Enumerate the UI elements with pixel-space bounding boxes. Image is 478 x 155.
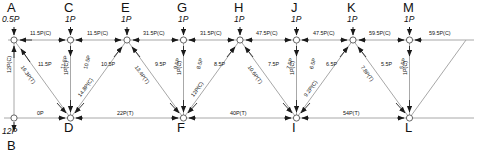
top-chord-force-E-G: 31.5P(C) — [143, 30, 165, 36]
top-chord-force-M-end: 59.5P(C) — [429, 30, 451, 36]
node-label-K: K — [347, 0, 356, 15]
joint-component-label: 7.5P — [268, 61, 279, 67]
node-label-G: G — [177, 0, 187, 15]
joint-B — [11, 115, 17, 121]
node-label-D: D — [64, 120, 73, 135]
node-label-E: E — [121, 0, 130, 15]
members-group — [4, 40, 474, 118]
joint-A — [11, 37, 17, 43]
bottom-chord-force-F-I: 40P(T) — [230, 110, 246, 116]
node-label-F: F — [177, 120, 185, 135]
joint-G — [180, 37, 186, 43]
load-value-A: 0.5P — [2, 14, 20, 24]
bottom-chord-force-B-D: 0P — [37, 110, 44, 116]
joint-component-label: 5.5P — [381, 61, 392, 67]
bottom-chord-force-D-F: 22P(T) — [117, 110, 133, 116]
top-chord-force-G-H: 31.5P(C) — [200, 30, 222, 36]
reaction-value-B: 12P — [2, 126, 17, 136]
node-label-B: B — [7, 138, 16, 153]
bottom-chord-force-I-L: 54P(T) — [343, 110, 359, 116]
load-value-M: 1P — [404, 14, 414, 24]
load-value-K: 1P — [347, 14, 357, 24]
top-chord-force-K-M: 59.5P(C) — [369, 30, 391, 36]
member-L-extension — [410, 40, 467, 118]
top-chord-force-A-C: 11.5P(C) — [30, 30, 51, 36]
top-chord-force-J-K: 47.5P(C) — [313, 30, 335, 36]
load-value-J: 1P — [291, 14, 301, 24]
vertical-force-A-B: 12P(C) — [6, 56, 12, 73]
joint-component-label: 8.5P — [214, 61, 225, 67]
joint-component-label: 9.5P — [155, 61, 166, 67]
node-label-L: L — [405, 120, 412, 135]
joint-force-arrows — [14, 40, 422, 118]
load-value-H: 1P — [234, 14, 244, 24]
joint-J — [293, 37, 299, 43]
node-label-A: A — [7, 0, 16, 15]
joint-C — [67, 37, 73, 43]
truss-diagram: A C E G H J K M B D F I L 0.5P 1P 1P 1P … — [0, 0, 478, 155]
load-value-C: 1P — [65, 14, 75, 24]
load-value-E: 1P — [121, 14, 131, 24]
joint-component-label: 6.5P — [326, 61, 337, 67]
top-chord-force-C-E: 11.5P(C) — [87, 30, 108, 36]
joint-component-label: 11.5P — [38, 61, 52, 67]
top-chord-force-H-J: 47.5P(C) — [256, 30, 278, 36]
node-label-J: J — [291, 0, 298, 15]
joint-H — [237, 37, 243, 43]
node-label-C: C — [64, 0, 73, 15]
joint-K — [350, 37, 356, 43]
joint-component-label: 10.5P — [101, 61, 115, 67]
joint-M — [406, 37, 412, 43]
joint-E — [124, 37, 130, 43]
node-label-I: I — [292, 120, 296, 135]
node-label-H: H — [234, 0, 243, 15]
node-label-M: M — [403, 0, 414, 15]
load-value-G: 1P — [178, 14, 188, 24]
